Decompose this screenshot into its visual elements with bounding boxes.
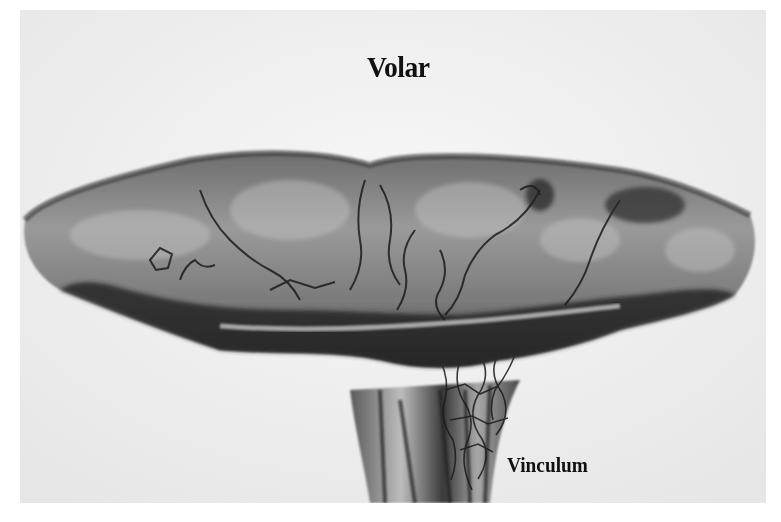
histology-photo: Volar Vinculum xyxy=(20,10,766,503)
volar-label: Volar xyxy=(367,50,430,84)
vinculum-label: Vinculum xyxy=(507,453,588,478)
